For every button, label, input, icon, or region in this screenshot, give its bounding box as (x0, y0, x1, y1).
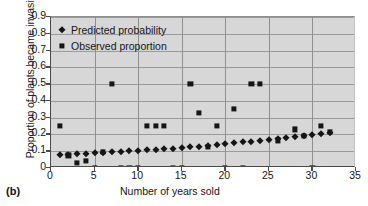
data-point-predicted (221, 140, 229, 148)
data-point-observed (258, 82, 263, 87)
data-point-predicted (230, 140, 238, 148)
x-tick-label: 20 (209, 170, 239, 181)
y-tick-label: 0.6 (0, 60, 46, 71)
gridline-horizontal (51, 67, 354, 68)
data-point-observed (214, 123, 219, 128)
x-axis-title: Number of years sold (120, 185, 220, 197)
y-tick-label: 0.4 (0, 94, 46, 105)
data-point-observed (170, 165, 175, 167)
x-tick-label: 10 (122, 170, 152, 181)
y-tick-mark (46, 150, 50, 151)
data-point-observed (109, 82, 114, 87)
y-tick-mark (46, 83, 50, 84)
x-tick-mark (224, 167, 225, 171)
data-point-predicted (265, 136, 273, 144)
panel-label: (b) (6, 185, 20, 197)
data-point-predicted (317, 130, 325, 138)
data-point-predicted (108, 148, 116, 156)
data-point-observed (57, 123, 62, 128)
data-point-predicted (248, 138, 256, 146)
x-tick-mark (181, 167, 182, 171)
data-point-predicted (213, 141, 221, 149)
y-tick-label: 0.9 (0, 10, 46, 21)
data-point-predicted (56, 152, 64, 160)
y-tick-mark (46, 50, 50, 51)
y-tick-label: 0.8 (0, 27, 46, 38)
x-tick-label: 25 (253, 170, 283, 181)
x-tick-mark (311, 167, 312, 171)
legend-item-observed: Observed proportion (56, 38, 167, 53)
gridline-horizontal (51, 101, 354, 102)
data-point-observed (319, 123, 324, 128)
data-point-observed (197, 110, 202, 115)
gridline-horizontal (51, 84, 354, 85)
data-point-predicted (126, 147, 134, 155)
y-tick-label: 0.7 (0, 44, 46, 55)
diamond-marker-icon (56, 24, 68, 36)
y-tick-label: 0.2 (0, 127, 46, 138)
data-point-predicted (187, 143, 195, 151)
data-point-predicted (256, 137, 264, 145)
x-tick-label: 30 (296, 170, 326, 181)
gridline-horizontal (51, 17, 354, 18)
data-point-observed (83, 159, 88, 164)
x-tick-label: 15 (166, 170, 196, 181)
data-point-observed (292, 127, 297, 132)
x-tick-mark (355, 167, 356, 171)
y-tick-mark (46, 133, 50, 134)
data-point-predicted (309, 131, 317, 139)
x-tick-label: 5 (79, 170, 109, 181)
data-point-predicted (134, 147, 142, 155)
data-point-observed (144, 123, 149, 128)
x-tick-label: 0 (35, 170, 65, 181)
data-point-observed (327, 129, 332, 134)
data-point-predicted (143, 146, 151, 154)
data-point-predicted (195, 143, 203, 151)
x-tick-mark (50, 167, 51, 171)
y-tick-mark (46, 100, 50, 101)
x-tick-mark (137, 167, 138, 171)
data-point-observed (127, 165, 132, 167)
legend-item-predicted: Predicted probability (56, 22, 167, 37)
data-point-observed (188, 82, 193, 87)
data-point-observed (240, 165, 245, 167)
data-point-observed (162, 123, 167, 128)
y-tick-label: 0.3 (0, 111, 46, 122)
data-point-predicted (239, 139, 247, 147)
y-tick-label: 0.1 (0, 144, 46, 155)
gridline-horizontal (51, 118, 354, 119)
data-point-observed (75, 160, 80, 165)
x-tick-label: 35 (340, 170, 368, 181)
figure-panel-b: Proportion of plants became invasive 00.… (0, 0, 368, 206)
data-point-observed (118, 165, 123, 167)
legend-label-observed: Observed proportion (71, 40, 167, 52)
data-point-predicted (117, 148, 125, 156)
legend: Predicted probability Observed proportio… (56, 22, 167, 54)
data-point-predicted (91, 149, 99, 157)
x-tick-mark (94, 167, 95, 171)
data-point-observed (153, 123, 158, 128)
y-tick-mark (46, 117, 50, 118)
data-point-observed (301, 134, 306, 139)
y-tick-mark (46, 16, 50, 17)
y-tick-mark (46, 33, 50, 34)
x-tick-mark (268, 167, 269, 171)
square-marker-icon (56, 40, 68, 52)
y-tick-mark (46, 66, 50, 67)
legend-label-predicted: Predicted probability (71, 24, 166, 36)
gridline-vertical (312, 17, 313, 166)
y-tick-label: 0.5 (0, 77, 46, 88)
data-point-observed (101, 149, 106, 154)
data-point-observed (275, 138, 280, 143)
data-point-observed (231, 107, 236, 112)
data-point-observed (249, 82, 254, 87)
data-point-observed (66, 153, 71, 158)
data-point-observed (205, 144, 210, 149)
